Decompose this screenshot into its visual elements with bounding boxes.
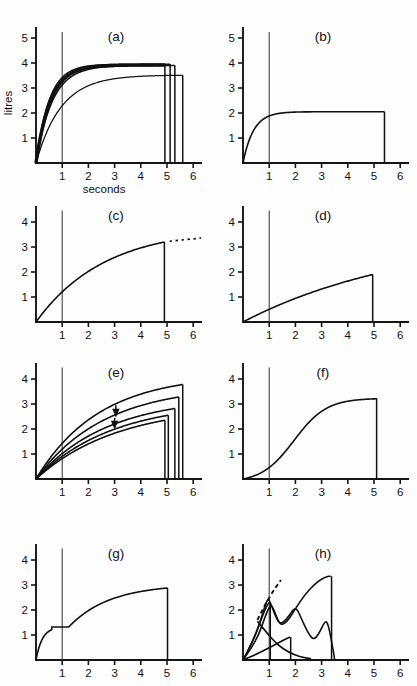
panel-label-h: (h)	[315, 546, 332, 561]
yticklabel-d-3: 3	[229, 241, 235, 253]
yticklabel-g-3: 3	[22, 579, 28, 591]
panel-b-axes	[243, 28, 408, 163]
curve-d-very-slow-curve	[243, 275, 373, 323]
xticklabel-g-6: 6	[190, 667, 196, 679]
panel-label-d: (d)	[315, 208, 332, 223]
panel-e-axes	[36, 364, 201, 479]
yticklabel-g-1: 1	[22, 629, 28, 641]
xticklabel-f-6: 6	[397, 486, 403, 498]
xticklabel-a-3: 3	[111, 170, 117, 182]
panel-label-g: (g)	[108, 546, 125, 561]
panel-b: 12345612345(b)	[229, 28, 408, 182]
panel-a: 12345612345(a)secondslitres	[2, 28, 201, 195]
panel-d-axes	[243, 207, 408, 322]
panel-label-e: (e)	[108, 365, 125, 380]
yticklabel-h-1: 1	[229, 629, 235, 641]
panel-g-axes	[36, 545, 201, 660]
xticklabel-b-4: 4	[345, 170, 352, 182]
yticklabel-b-4: 4	[229, 57, 236, 69]
yticklabel-b-1: 1	[229, 132, 235, 144]
spirometry-figure: 12345612345(a)secondslitres12345612345(b…	[0, 0, 417, 686]
yticklabel-g-2: 2	[22, 604, 28, 616]
yticklabel-h-4: 4	[229, 554, 236, 566]
xticklabel-c-6: 6	[190, 329, 196, 341]
yticklabel-h-2: 2	[229, 604, 235, 616]
yticklabel-e-1: 1	[22, 448, 28, 460]
panel-a-axes	[36, 28, 201, 163]
yticklabel-a-2: 2	[22, 107, 28, 119]
xticklabel-e-4: 4	[138, 486, 145, 498]
curve-e-curve-5-lowest	[36, 420, 165, 479]
yticklabel-c-3: 3	[22, 241, 28, 253]
yticklabel-c-4: 4	[22, 216, 29, 228]
panel-f: 1234561234(f)	[229, 364, 408, 498]
xticklabel-c-2: 2	[85, 329, 91, 341]
panel-e: 1234561234(e)	[22, 364, 201, 498]
xticklabel-e-6: 6	[190, 486, 196, 498]
xticklabel-c-3: 3	[111, 329, 117, 341]
xticklabel-d-4: 4	[345, 329, 352, 341]
curve-a-bundle-upper	[36, 65, 165, 163]
xticklabel-e-3: 3	[111, 486, 117, 498]
panel-c: 1234561234(c)	[22, 207, 201, 341]
xticklabel-d-1: 1	[266, 329, 272, 341]
xticklabel-f-5: 5	[371, 486, 377, 498]
figure-canvas: 12345612345(a)secondslitres12345612345(b…	[0, 0, 417, 686]
xticklabel-g-3: 3	[111, 667, 117, 679]
yticklabel-a-1: 1	[22, 132, 28, 144]
yticklabel-f-3: 3	[229, 398, 235, 410]
curve-c-slow-rise-curve	[36, 242, 164, 322]
xticklabel-h-4: 4	[345, 667, 352, 679]
xticklabel-d-5: 5	[371, 329, 377, 341]
yticklabel-b-5: 5	[229, 32, 235, 44]
curve-e-curve-4	[36, 415, 168, 479]
yticklabel-e-4: 4	[22, 373, 29, 385]
yticklabel-b-3: 3	[229, 82, 235, 94]
xticklabel-g-2: 2	[85, 667, 91, 679]
xticklabel-e-5: 5	[164, 486, 170, 498]
xticklabel-b-6: 6	[397, 170, 403, 182]
xticklabel-f-3: 3	[318, 486, 324, 498]
xticklabel-a-6: 6	[190, 170, 196, 182]
xticklabel-c-5: 5	[164, 329, 170, 341]
xticklabel-f-4: 4	[345, 486, 352, 498]
dotted-extension-c	[170, 238, 201, 241]
xticklabel-b-2: 2	[292, 170, 298, 182]
xticklabel-f-2: 2	[292, 486, 298, 498]
panel-g: 1234561234(g)	[22, 545, 201, 679]
xticklabel-e-2: 2	[85, 486, 91, 498]
panel-h: 1234561234(h)	[229, 545, 408, 679]
x-axis-title: seconds	[83, 183, 126, 195]
yticklabel-c-2: 2	[22, 266, 28, 278]
xticklabel-b-5: 5	[371, 170, 377, 182]
arrow-head-e-1	[112, 422, 117, 428]
panel-label-c: (c)	[108, 208, 124, 223]
panel-c-axes	[36, 207, 201, 322]
xticklabel-b-3: 3	[318, 170, 324, 182]
xticklabel-h-1: 1	[266, 667, 272, 679]
xticklabel-f-1: 1	[266, 486, 272, 498]
yticklabel-a-5: 5	[22, 32, 28, 44]
yticklabel-a-3: 3	[22, 82, 28, 94]
yticklabel-e-3: 3	[22, 398, 28, 410]
xticklabel-h-3: 3	[318, 667, 324, 679]
curve-f-sigmoid	[243, 399, 377, 479]
yticklabel-h-3: 3	[229, 579, 235, 591]
xticklabel-b-1: 1	[266, 170, 272, 182]
xticklabel-a-2: 2	[85, 170, 91, 182]
yticklabel-f-2: 2	[229, 423, 235, 435]
yticklabel-d-1: 1	[229, 291, 235, 303]
xticklabel-h-5: 5	[371, 667, 377, 679]
curve-b-single-curve	[243, 112, 384, 163]
xticklabel-h-2: 2	[292, 667, 298, 679]
yticklabel-d-2: 2	[229, 266, 235, 278]
panel-h-axes	[243, 545, 408, 660]
curve-e-curve-2	[36, 397, 179, 479]
xticklabel-g-1: 1	[59, 667, 65, 679]
panel-label-b: (b)	[315, 29, 332, 44]
xticklabel-c-1: 1	[59, 329, 65, 341]
yticklabel-a-4: 4	[22, 57, 29, 69]
y-axis-title: litres	[2, 91, 14, 116]
xticklabel-g-4: 4	[138, 667, 145, 679]
panel-label-a: (a)	[108, 29, 125, 44]
